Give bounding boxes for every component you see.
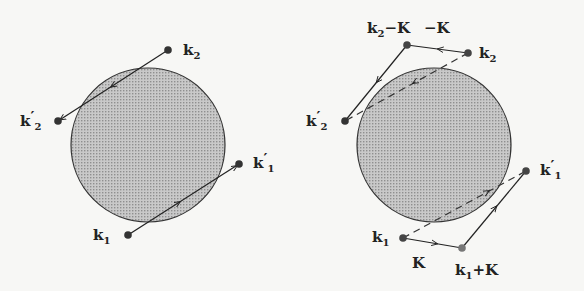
- label-K: K: [412, 254, 426, 272]
- label-k2: k2: [183, 41, 200, 61]
- label-k2-prime: k′2: [306, 108, 327, 132]
- label-k2: k2: [479, 44, 496, 64]
- label-k1: k1: [93, 226, 110, 246]
- point-k1-prime: [235, 160, 243, 168]
- umklapp-process-panel: k2−K −K k2 k′2 k′1 k1 K k1+K: [306, 19, 561, 281]
- vector-minus-K: [407, 45, 468, 53]
- fermi-sphere-left: [71, 68, 225, 222]
- point-k2-minus-K: [403, 41, 411, 49]
- fermi-sphere-right: [357, 68, 511, 222]
- label-k1-prime: k′1: [253, 150, 274, 174]
- label-k1: k1: [372, 228, 389, 248]
- point-k1-plus-K: [458, 244, 466, 252]
- umklapp-diagram: k2 k′2 k′1 k1 k2−K −K k2 k′2 k′1 k1 K: [0, 0, 584, 291]
- point-k1: [399, 234, 407, 242]
- label-k2-minus-K: k2−K: [367, 19, 411, 39]
- point-k1: [124, 231, 132, 239]
- label-k1-prime: k′1: [540, 157, 561, 181]
- point-k2: [464, 49, 472, 57]
- vector-K: [403, 238, 462, 248]
- point-k2-prime: [54, 117, 62, 125]
- normal-process-panel: k2 k′2 k′1 k1: [20, 41, 274, 246]
- label-minus-K: −K: [424, 19, 451, 37]
- label-k2-prime: k′2: [20, 108, 41, 132]
- point-k1-prime: [522, 167, 530, 175]
- point-k2-prime: [341, 117, 349, 125]
- point-k2: [164, 46, 172, 54]
- label-k1-plus-K: k1+K: [455, 261, 499, 281]
